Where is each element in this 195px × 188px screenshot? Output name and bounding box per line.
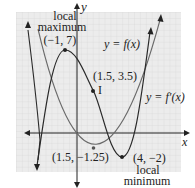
min-label-line2: minimum (124, 174, 171, 188)
inflection-coords-label: (1.5, 3.5) (93, 69, 137, 83)
inflection-point (91, 89, 95, 93)
local-max-point (63, 48, 67, 52)
max-coords-label: (−1, 7) (44, 33, 77, 47)
y-axis-label: y (79, 0, 87, 14)
y-axis-down-arrow-icon (74, 182, 80, 188)
x-axis-label: x (181, 135, 188, 149)
max-label-line2: maximum (38, 20, 87, 34)
graph: y x local maximum (−1, 7) y = f(x) (1.5,… (0, 0, 195, 188)
fprime-curve-label: y = f′(x) (145, 90, 185, 104)
inflection-name-label: I (98, 83, 102, 97)
vertex-coords-label: (1.5, −1.25) (52, 150, 109, 164)
local-min-point (120, 155, 124, 159)
f-curve-label: y = f(x) (103, 37, 140, 51)
